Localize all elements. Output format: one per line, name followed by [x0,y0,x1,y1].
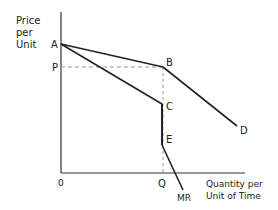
kinked-demand-diagram: Price per Unit A P B C E D 0 Q MR Quanti… [0,0,278,210]
diagram-svg: Price per Unit A P B C E D 0 Q MR Quanti… [0,0,278,210]
quantity-q-label: Q [158,178,166,189]
y-axis-label-line1: Price [16,15,40,26]
demand-segment-ab [61,44,163,67]
price-p-label: P [52,62,58,73]
origin-label: 0 [58,178,64,188]
point-e-label: E [166,134,172,145]
point-b-label: B [166,57,173,68]
x-axis-label-line1: Quantity per [206,179,263,189]
y-axis-label-line3: Unit [16,39,36,50]
demand-segment-bd [163,67,237,126]
point-a-label: A [51,39,58,50]
point-d-label: D [240,125,248,136]
y-axis-label-line2: per [16,27,34,38]
mr-segment-ac [61,44,162,104]
mr-curve-label: MR [177,193,191,203]
point-c-label: C [166,101,173,112]
x-axis-label-line2: Unit of Time [206,191,261,201]
